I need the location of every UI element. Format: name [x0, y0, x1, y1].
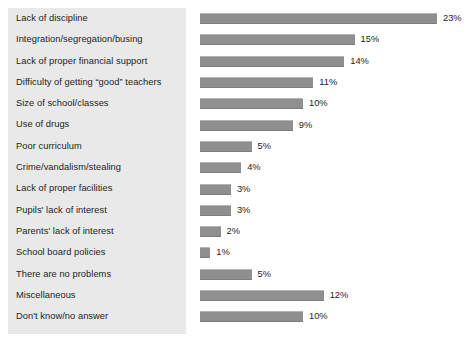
category-label: Lack of proper facilities — [16, 178, 186, 199]
chart-row: Difficulty of getting “good” teachers11% — [0, 72, 472, 93]
bar-group: 4% — [200, 157, 261, 178]
bar — [200, 269, 252, 280]
category-label: Crime/vandalism/stealing — [16, 157, 186, 178]
chart-row: Integration/segregation/busing15% — [0, 29, 472, 50]
bar-value-label: 3% — [237, 205, 250, 216]
category-label: Lack of proper financial support — [16, 51, 186, 72]
bar-value-label: 3% — [237, 184, 250, 195]
bar — [200, 141, 252, 152]
category-label: Don't know/no answer — [16, 306, 186, 327]
chart-row: Lack of discipline23% — [0, 8, 472, 29]
chart-row: Use of drugs9% — [0, 114, 472, 135]
category-label: Use of drugs — [16, 114, 186, 135]
chart-row: Parents' lack of interest2% — [0, 221, 472, 242]
bar-group: 10% — [200, 93, 328, 114]
category-label: Pupils' lack of interest — [16, 200, 186, 221]
category-label: Size of school/classes — [16, 93, 186, 114]
bar-group: 3% — [200, 178, 250, 199]
chart-row: There are no problems5% — [0, 264, 472, 285]
bar — [200, 34, 355, 45]
chart-row: Crime/vandalism/stealing4% — [0, 157, 472, 178]
bar-value-label: 1% — [216, 247, 229, 258]
category-label: Miscellaneous — [16, 285, 186, 306]
chart-row: Size of school/classes10% — [0, 93, 472, 114]
chart-row: School board policies1% — [0, 242, 472, 263]
category-label: Integration/segregation/busing — [16, 29, 186, 50]
category-label: Parents' lack of interest — [16, 221, 186, 242]
bar — [200, 226, 221, 237]
bar-group: 15% — [200, 29, 379, 50]
bar — [200, 290, 324, 301]
bar-group: 12% — [200, 285, 348, 306]
chart-rows: Lack of discipline23%Integration/segrega… — [0, 8, 472, 334]
bar — [200, 77, 313, 88]
bar — [200, 162, 241, 173]
chart-row: Don't know/no answer10% — [0, 306, 472, 327]
bar-group: 2% — [200, 221, 240, 242]
bar-value-label: 11% — [319, 77, 337, 88]
category-label: Lack of discipline — [16, 8, 186, 29]
bar-value-label: 12% — [330, 290, 349, 301]
category-label: Difficulty of getting “good” teachers — [16, 72, 186, 93]
bar — [200, 56, 344, 67]
bar — [200, 98, 303, 109]
bar-value-label: 15% — [361, 34, 380, 45]
bar — [200, 120, 293, 131]
bar-group: 11% — [200, 72, 337, 93]
chart-row: Miscellaneous12% — [0, 285, 472, 306]
bar-value-label: 2% — [227, 226, 240, 237]
category-label: There are no problems — [16, 264, 186, 285]
bar-group: 5% — [200, 264, 271, 285]
bar-value-label: 14% — [350, 56, 369, 67]
bar — [200, 184, 231, 195]
bar-value-label: 10% — [309, 311, 328, 322]
chart-row: Poor curriculum5% — [0, 136, 472, 157]
category-label: School board policies — [16, 242, 186, 263]
bar — [200, 205, 231, 216]
chart-row: Lack of proper financial support14% — [0, 51, 472, 72]
bar-value-label: 9% — [299, 120, 312, 131]
bar-group: 1% — [200, 242, 230, 263]
bar-value-label: 5% — [258, 141, 271, 152]
bar-group: 14% — [200, 51, 369, 72]
category-label: Poor curriculum — [16, 136, 186, 157]
bar-group: 10% — [200, 306, 328, 327]
bar-group: 23% — [200, 8, 462, 29]
bar-group: 9% — [200, 114, 312, 135]
bar-group: 3% — [200, 200, 250, 221]
bar-group: 5% — [200, 136, 271, 157]
bar — [200, 247, 210, 258]
bar-chart: Lack of discipline23%Integration/segrega… — [0, 0, 472, 344]
bar-value-label: 4% — [247, 162, 260, 173]
bar-value-label: 5% — [258, 269, 271, 280]
bar — [200, 13, 437, 24]
chart-row: Lack of proper facilities3% — [0, 178, 472, 199]
bar-value-label: 23% — [443, 13, 462, 24]
bar-value-label: 10% — [309, 98, 328, 109]
chart-row: Pupils' lack of interest3% — [0, 200, 472, 221]
bar — [200, 311, 303, 322]
